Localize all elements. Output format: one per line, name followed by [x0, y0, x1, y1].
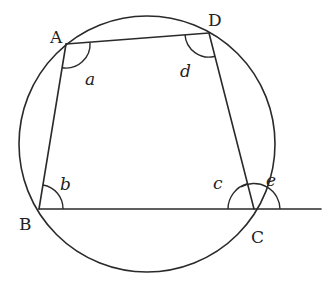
- angle-arc-c: [228, 184, 248, 209]
- side-ad: [66, 33, 209, 44]
- angle-label-e: e: [266, 170, 276, 190]
- point-label-d: D: [208, 10, 222, 30]
- angle-label-a: a: [85, 69, 95, 89]
- point-label-c: C: [251, 227, 264, 247]
- angle-label-c: c: [213, 173, 223, 193]
- angle-label-b: b: [60, 174, 71, 194]
- cyclic-quadrilateral-diagram: A D B C a d b c e: [0, 0, 334, 293]
- point-label-b: B: [19, 214, 32, 234]
- angle-label-d: d: [180, 61, 191, 81]
- point-label-a: A: [49, 27, 63, 47]
